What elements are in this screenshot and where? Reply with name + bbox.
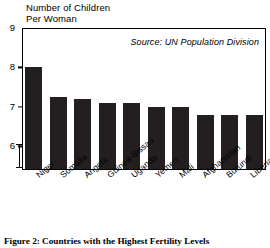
figure-container: Number of Children Per Woman Source: UN … <box>0 0 270 248</box>
y-axis: 9876 <box>0 28 22 170</box>
y-tick-mark-7 <box>18 106 22 107</box>
y-tick-label-9: 9 <box>10 23 15 33</box>
y-tick-label-6: 6 <box>10 142 15 152</box>
bar-somalia <box>50 97 67 169</box>
y-axis-break-mark-2 <box>16 167 23 168</box>
y-axis-break-stem <box>19 144 20 167</box>
y-tick-mark-8 <box>18 67 22 68</box>
y-tick-label-8: 8 <box>10 63 15 73</box>
figure-caption: Figure 2: Countries with the Highest Fer… <box>4 236 266 246</box>
y-tick-label-7: 7 <box>10 102 15 112</box>
bar-afghanistan <box>197 115 214 169</box>
y-axis-title: Number of Children Per Woman <box>26 2 110 24</box>
bar-niger <box>25 67 42 169</box>
x-axis-labels: NigerSomaliaAngolaGuinea-BissauUgandaYem… <box>23 170 265 228</box>
